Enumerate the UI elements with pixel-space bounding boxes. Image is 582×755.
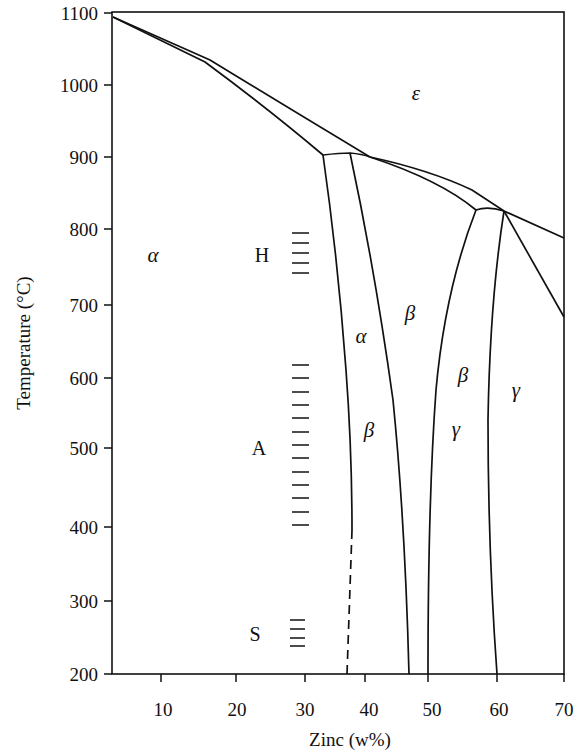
phase-diagram: 200 300 400 500 600 700 800 900 1000 110… bbox=[0, 0, 582, 755]
y-axis-title: Temperature (°C) bbox=[13, 276, 35, 409]
alpha-solvus-dashed bbox=[347, 530, 352, 674]
mark-label-s: S bbox=[249, 623, 260, 645]
y-axis: 200 300 400 500 600 700 800 900 1000 110… bbox=[13, 3, 112, 685]
gamma-left-line bbox=[488, 211, 504, 674]
region-label-beta-two-phase: β bbox=[363, 418, 375, 442]
y-tick-label: 800 bbox=[70, 219, 99, 240]
region-label-gamma: γ bbox=[512, 378, 521, 402]
y-tick-label: 900 bbox=[70, 147, 99, 168]
gamma-right-line bbox=[504, 211, 564, 317]
plot-frame bbox=[112, 12, 564, 674]
x-tick-label: 40 bbox=[360, 699, 379, 720]
x-tick-label: 50 bbox=[423, 699, 442, 720]
region-label-alpha-two-phase: α bbox=[355, 324, 367, 348]
y-tick-label: 500 bbox=[70, 438, 99, 459]
alpha-solidus-line bbox=[113, 17, 323, 155]
alpha-solvus-line bbox=[323, 155, 352, 530]
gamma-upper-line bbox=[370, 157, 476, 210]
beta-left-line bbox=[350, 153, 409, 674]
region-label-beta: β bbox=[404, 301, 416, 325]
hatch-marks-a bbox=[292, 365, 309, 525]
mark-label-h: H bbox=[255, 244, 269, 266]
hatch-marks-h bbox=[292, 233, 309, 273]
mark-label-a: A bbox=[252, 437, 267, 459]
x-axis: 10 20 30 40 50 60 70 Zinc (w%) bbox=[154, 674, 574, 751]
x-tick-label: 30 bbox=[296, 699, 315, 720]
y-tick-label: 1000 bbox=[60, 75, 98, 96]
y-tick-label: 200 bbox=[70, 664, 99, 685]
y-tick-label: 400 bbox=[70, 517, 99, 538]
region-label-epsilon: ε bbox=[412, 81, 421, 105]
x-tick-label: 20 bbox=[228, 699, 247, 720]
y-tick-label: 700 bbox=[70, 295, 99, 316]
hatch-marks-s bbox=[290, 620, 305, 646]
y-tick-label: 300 bbox=[70, 591, 99, 612]
x-tick-label: 60 bbox=[490, 699, 509, 720]
region-label-alpha: α bbox=[147, 243, 159, 267]
y-tick-label: 600 bbox=[70, 368, 99, 389]
beta-right-line bbox=[428, 210, 476, 674]
region-label-beta-two-phase-2: β bbox=[457, 363, 469, 387]
phase-boundaries bbox=[113, 17, 564, 674]
x-tick-label: 10 bbox=[154, 699, 173, 720]
x-tick-label: 70 bbox=[555, 699, 574, 720]
x-axis-title: Zinc (w%) bbox=[309, 729, 391, 751]
y-tick-label: 1100 bbox=[61, 3, 98, 24]
region-label-gamma-two-phase: γ bbox=[452, 417, 461, 441]
